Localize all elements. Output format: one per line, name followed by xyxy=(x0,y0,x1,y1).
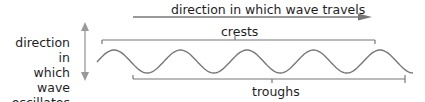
oscillation-label-line: which wave xyxy=(6,65,70,95)
crests-label: crests xyxy=(221,26,258,39)
troughs-bracket xyxy=(133,75,405,83)
travel-direction-label: direction in which wave travels xyxy=(171,4,365,17)
oscillation-label-line: oscillates xyxy=(6,95,70,102)
wave-curve xyxy=(97,50,413,73)
oscillation-arrow-up-icon xyxy=(81,22,89,31)
oscillation-label-line: direction in xyxy=(6,35,70,65)
oscillation-arrow-down-icon xyxy=(81,72,89,81)
oscillation-direction-label: direction in which wave oscillates xyxy=(6,35,70,102)
troughs-label: troughs xyxy=(252,86,300,99)
